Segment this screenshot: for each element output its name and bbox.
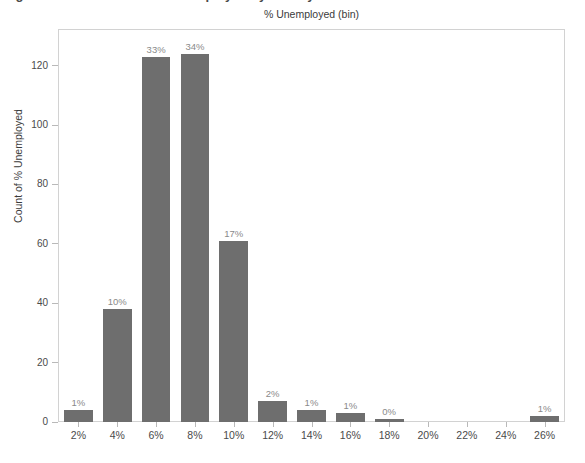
y-axis-tick: 40: [0, 297, 58, 309]
x-axis-tick-mark: [156, 422, 157, 427]
bar[interactable]: [258, 401, 287, 422]
bar-data-label: 1%: [331, 400, 370, 411]
x-axis-tick-mark: [545, 422, 546, 427]
x-axis-tick-label: 12%: [253, 429, 292, 441]
bar-data-label: 2%: [253, 388, 292, 399]
clipped-page-heading: Figure 4. Distribution of % Unemployed b…: [0, 0, 585, 5]
y-axis-tick-mark: [52, 362, 58, 363]
bar-data-label: 0%: [370, 406, 409, 417]
y-axis-tick: 20: [0, 357, 58, 369]
x-axis-tick-mark: [350, 422, 351, 427]
bar-data-label: 1%: [292, 397, 331, 408]
x-axis-tick-label: 2%: [59, 429, 98, 441]
y-axis-tick-mark: [52, 65, 58, 66]
bar-data-label: 33%: [137, 44, 176, 55]
bar[interactable]: [181, 54, 210, 422]
bar[interactable]: [64, 410, 93, 422]
bar[interactable]: [336, 413, 365, 422]
y-axis-tick: 120: [0, 60, 58, 72]
x-axis-tick-mark: [195, 422, 196, 427]
y-axis-title: Count of % Unemployed: [12, 86, 24, 246]
y-axis-tick-label: 0: [42, 416, 48, 428]
y-axis-tick-label: 100: [31, 119, 48, 131]
y-axis-tick-label: 80: [37, 178, 48, 190]
y-axis-tick: 100: [0, 119, 58, 131]
y-axis-tick-mark: [52, 184, 58, 185]
y-axis-tick: 80: [0, 178, 58, 190]
y-axis-tick: 60: [0, 238, 58, 250]
bar[interactable]: [530, 416, 559, 422]
x-axis-tick-mark: [467, 422, 468, 427]
x-axis-tick-mark: [117, 422, 118, 427]
bar-data-label: 34%: [176, 41, 215, 52]
plot-area: 1%10%33%34%17%2%1%1%0%1%: [59, 30, 564, 422]
x-axis-tick-label: 18%: [370, 429, 409, 441]
bar[interactable]: [142, 57, 171, 422]
y-axis-tick: 0: [0, 416, 58, 428]
y-axis-tick-label: 40: [37, 297, 48, 309]
y-axis-tick-label: 60: [37, 238, 48, 250]
y-axis-tick-label: 120: [31, 60, 48, 72]
x-axis-tick-label: 24%: [486, 429, 525, 441]
histogram-chart: Figure 4. Distribution of % Unemployed b…: [0, 0, 585, 463]
x-axis-tick-mark: [234, 422, 235, 427]
bar-data-label: 1%: [525, 403, 564, 414]
x-axis-tick-mark: [78, 422, 79, 427]
y-axis-tick-mark: [52, 422, 58, 423]
x-axis-tick-label: 10%: [214, 429, 253, 441]
chart-title: % Unemployed (bin): [58, 8, 565, 20]
x-axis-tick-mark: [312, 422, 313, 427]
x-axis-tick-label: 16%: [331, 429, 370, 441]
x-axis-tick-label: 14%: [292, 429, 331, 441]
x-axis-tick-mark: [389, 422, 390, 427]
bar-data-label: 1%: [59, 397, 98, 408]
x-axis-tick-label: 8%: [176, 429, 215, 441]
clipped-page-heading-text: Figure 4. Distribution of % Unemployed b…: [0, 0, 585, 2]
x-axis-tick-mark: [506, 422, 507, 427]
y-axis-tick-mark: [52, 125, 58, 126]
x-axis-tick-label: 22%: [447, 429, 486, 441]
x-axis-tick-label: 4%: [98, 429, 137, 441]
bar[interactable]: [103, 309, 132, 422]
bar[interactable]: [375, 419, 404, 422]
x-axis-tick-label: 26%: [525, 429, 564, 441]
x-axis-tick-mark: [428, 422, 429, 427]
bar-data-label: 17%: [214, 228, 253, 239]
y-axis-tick-mark: [52, 243, 58, 244]
bar[interactable]: [219, 241, 248, 422]
bar[interactable]: [297, 410, 326, 422]
x-axis-tick-mark: [273, 422, 274, 427]
bar-data-label: 10%: [98, 296, 137, 307]
y-axis-tick-mark: [52, 303, 58, 304]
x-axis-tick-label: 20%: [409, 429, 448, 441]
y-axis-tick-label: 20: [37, 357, 48, 369]
x-axis-tick-label: 6%: [137, 429, 176, 441]
